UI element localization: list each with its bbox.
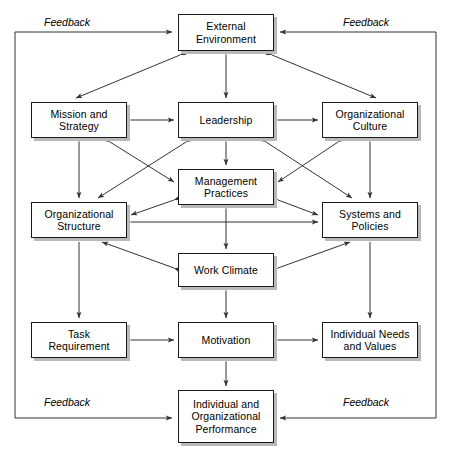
node-label: Individual and Organizational Performanc… <box>189 398 262 436</box>
link-external-environment-organizational-culture <box>272 55 376 98</box>
node-label: Individual Needs and Values <box>328 328 411 353</box>
node-systems-and-policies[interactable]: Systems and Policies <box>322 202 418 238</box>
link-work-climate-systems-policies <box>278 242 350 268</box>
node-work-climate[interactable]: Work Climate <box>178 253 274 287</box>
link-organizational-culture-management-practices <box>278 142 338 182</box>
link-mission-strategy-management-practices <box>110 142 174 182</box>
node-label: Organizational Culture <box>333 108 406 133</box>
link-external-environment-mission-strategy <box>76 55 180 98</box>
node-mission-and-strategy[interactable]: Mission and Strategy <box>31 102 127 138</box>
node-label: Motivation <box>200 334 253 347</box>
node-label: Management Practices <box>193 175 259 200</box>
node-management-practices[interactable]: Management Practices <box>178 169 274 205</box>
link-work-climate-organizational-structure <box>102 242 174 268</box>
burke-litwin-diagram: External Environment Mission and Strateg… <box>0 0 452 470</box>
node-task-requirement[interactable]: Task Requirement <box>31 322 127 358</box>
feedback-label-top-right: Feedback <box>343 16 389 28</box>
node-leadership[interactable]: Leadership <box>178 102 274 138</box>
node-organizational-structure[interactable]: Organizational Structure <box>31 202 127 238</box>
node-individual-needs-and-values[interactable]: Individual Needs and Values <box>322 322 418 358</box>
node-external-environment[interactable]: External Environment <box>178 14 274 51</box>
feedback-label-bottom-left: Feedback <box>44 396 90 408</box>
feedback-label-top-left: Feedback <box>44 16 90 28</box>
node-label: Mission and Strategy <box>48 108 109 133</box>
node-motivation[interactable]: Motivation <box>178 322 274 358</box>
node-organizational-culture[interactable]: Organizational Culture <box>322 102 418 138</box>
node-label: Work Climate <box>192 264 260 277</box>
node-individual-and-organizational-performance[interactable]: Individual and Organizational Performanc… <box>178 390 274 443</box>
node-label: External Environment <box>194 20 258 45</box>
node-label: Leadership <box>198 114 255 127</box>
node-label: Task Requirement <box>46 328 111 353</box>
link-management-practices-organizational-structure <box>131 200 174 215</box>
node-label: Organizational Structure <box>42 208 115 233</box>
link-leadership-systems-policies <box>266 142 352 198</box>
link-management-practices-systems-policies <box>278 200 318 215</box>
link-leadership-organizational-structure <box>98 142 186 198</box>
node-label: Systems and Policies <box>337 208 403 233</box>
feedback-label-bottom-right: Feedback <box>343 396 389 408</box>
